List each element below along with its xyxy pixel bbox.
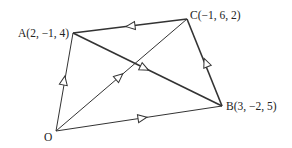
vector-diagram: A(2, −1, 4) C(−1, 6, 2) B(3, −2, 5) O xyxy=(0,0,292,148)
arrow-OA-icon xyxy=(59,75,68,85)
label-B: B(3, −2, 5) xyxy=(226,100,277,113)
arrow-AB-icon xyxy=(139,63,151,74)
label-O: O xyxy=(44,131,52,143)
label-A: A(2, −1, 4) xyxy=(18,27,69,40)
arrow-CA-icon xyxy=(126,22,136,31)
arrow-BC-icon xyxy=(200,57,211,68)
arrow-OB-icon xyxy=(137,113,147,122)
label-C: C(−1, 6, 2) xyxy=(190,9,241,22)
